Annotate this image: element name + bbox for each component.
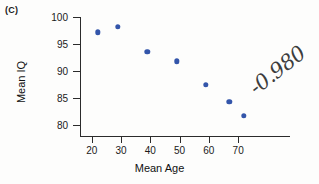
x-axis-tick [150,136,151,143]
y-axis-tick-label: 85 [57,93,68,104]
x-axis-tick [180,136,181,143]
y-axis-tick [73,71,80,72]
y-axis-tick-label: 100 [51,12,68,23]
y-axis-title: Mean IQ [15,42,27,122]
x-axis-tick-label: 40 [145,145,156,156]
y-axis-tick [73,44,80,45]
panel-label: (C) [5,5,18,15]
scatter-plot-figure: (C) 80859095100 203040506070 Mean IQ Mea… [0,0,319,184]
x-axis-tick-label: 20 [86,145,97,156]
x-axis-tick-label: 70 [233,145,244,156]
x-axis-tick-label: 60 [203,145,214,156]
x-axis-tick [209,136,210,143]
x-axis-line [80,136,290,137]
x-axis-tick-label: 50 [174,145,185,156]
x-axis-tick [121,136,122,143]
y-axis-tick-label: 80 [57,120,68,131]
y-axis-tick-label: 90 [57,66,68,77]
y-axis-tick [73,125,80,126]
y-axis-tick-label: 95 [57,39,68,50]
x-axis-tick [92,136,93,143]
y-axis-tick [73,17,80,18]
x-axis-tick [238,136,239,143]
x-axis-tick-label: 30 [115,145,126,156]
x-axis-title: Mean Age [0,162,319,174]
y-axis-tick [73,98,80,99]
